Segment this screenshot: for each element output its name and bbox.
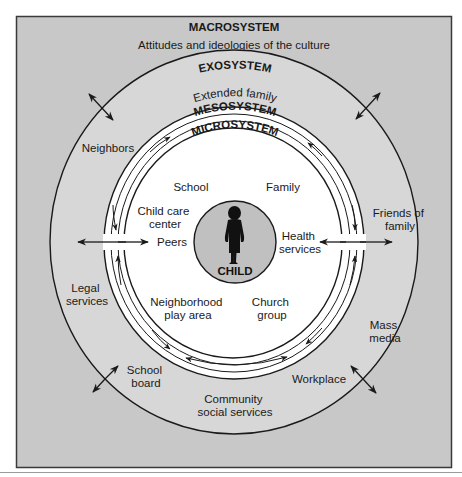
exo-label-legal-services: Legal services: [66, 282, 108, 307]
exo-label-community-social-services: Community social services: [198, 393, 273, 418]
micro-label-family: Family: [266, 181, 300, 193]
child-label: CHILD: [217, 265, 252, 277]
macrosystem-subtitle: Attitudes and ideologies of the culture: [138, 39, 330, 51]
macrosystem-heading: MACROSYSTEM: [189, 21, 280, 33]
exo-label-neighbors: Neighbors: [82, 142, 135, 154]
exo-label-school-board: School board: [127, 364, 165, 389]
ecological-systems-diagram: MACROSYSTEM Attitudes and ideologies of …: [0, 0, 462, 477]
micro-label-school: School: [173, 181, 208, 193]
micro-label-health-services: Health services: [279, 230, 321, 255]
micro-label-church-group: Church group: [252, 296, 292, 321]
exo-label-workplace: Workplace: [292, 373, 346, 385]
micro-label-peers: Peers: [157, 236, 187, 248]
exo-label-mass-media: Mass media: [369, 319, 401, 344]
